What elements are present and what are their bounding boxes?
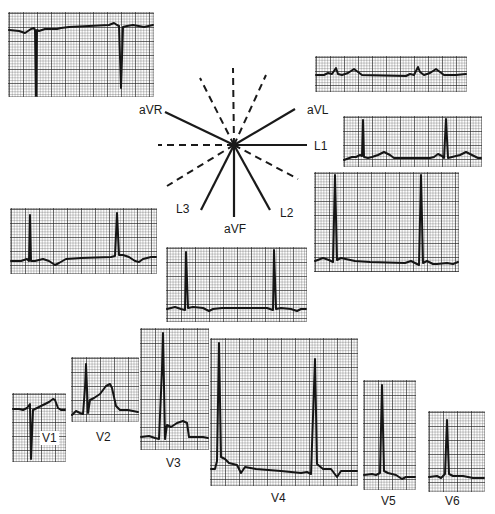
ecg-strip-l1 xyxy=(343,116,482,167)
ecg-trace-v2 xyxy=(72,358,138,421)
ecg-strip-l3 xyxy=(10,208,157,274)
axis-l2-negative xyxy=(200,78,234,145)
axis-l3-line xyxy=(201,145,234,210)
ecg-trace-v4 xyxy=(211,339,357,485)
ecg-trace-avf xyxy=(167,248,306,321)
label-avr: aVR xyxy=(139,103,162,117)
axis-l2-line xyxy=(234,145,270,210)
label-l2: L2 xyxy=(280,206,293,220)
axis-avr-line xyxy=(165,112,234,145)
label-v3: V3 xyxy=(166,456,181,470)
ecg-strip-avf xyxy=(166,247,307,322)
ecg-strip-v6 xyxy=(428,411,485,492)
label-avl: aVL xyxy=(307,103,328,117)
label-l1: L1 xyxy=(314,139,327,153)
axis-avl-line xyxy=(234,109,295,145)
label-avf: aVF xyxy=(224,222,246,236)
hexaxial-lines xyxy=(140,50,340,250)
ecg-trace-l1 xyxy=(344,117,481,166)
ecg-strip-v1 xyxy=(12,393,66,462)
label-v2: V2 xyxy=(96,430,111,444)
label-v4: V4 xyxy=(271,491,286,505)
ecg-trace-v3 xyxy=(141,329,208,449)
ecg-strip-avr xyxy=(8,12,154,97)
ecg-strip-v3 xyxy=(140,328,209,450)
label-v1: V1 xyxy=(40,431,59,445)
label-v6: V6 xyxy=(445,494,460,508)
axis-avf-negative xyxy=(233,68,234,145)
label-l3: L3 xyxy=(176,202,189,216)
ecg-strip-v2 xyxy=(71,357,139,422)
axis-center-dot xyxy=(232,143,237,148)
ecg-trace-avr xyxy=(9,13,153,96)
ecg-trace-v6 xyxy=(429,412,484,491)
label-v5: V5 xyxy=(381,494,396,508)
ecg-trace-v5 xyxy=(364,381,415,489)
ecg-strip-v5 xyxy=(363,380,416,490)
ecg-trace-l3 xyxy=(11,209,156,273)
ecg-strip-v4 xyxy=(210,338,358,486)
hexaxial-reference-diagram xyxy=(140,50,340,250)
ecg-trace-v1 xyxy=(13,394,65,461)
